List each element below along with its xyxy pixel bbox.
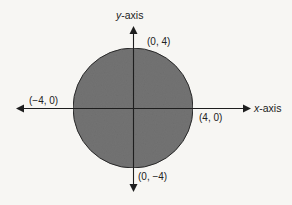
y-axis-down-arrow-icon	[130, 184, 138, 192]
x-axis-right-arrow-icon	[243, 105, 251, 113]
point-label-bottom: (0, −4)	[138, 171, 167, 182]
x-axis-label: x-axis	[253, 102, 281, 114]
y-axis-up-arrow-icon	[130, 26, 138, 34]
point-label-right: (4, 0)	[199, 112, 222, 123]
coordinate-plane-diagram: y-axis x-axis (0, 4) (−4, 0) (4, 0) (0, …	[0, 0, 292, 205]
x-axis-left-arrow-icon	[16, 105, 24, 113]
point-label-top: (0, 4)	[147, 36, 170, 47]
point-label-left: (−4, 0)	[29, 95, 58, 106]
y-axis-label: y-axis	[115, 9, 143, 21]
